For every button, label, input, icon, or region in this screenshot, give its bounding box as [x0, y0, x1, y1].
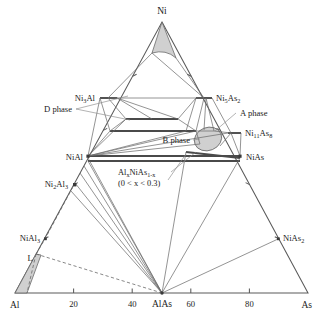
tie-f1-alas: [80, 173, 162, 293]
tick-label-80: 80: [245, 299, 254, 309]
tie-midbar-nial: [88, 131, 110, 156]
nial3-sub2: 3: [37, 237, 40, 244]
nias2-sub2: 2: [301, 237, 304, 244]
compound-label-ni3al: Ni3Al: [75, 93, 96, 104]
tie-nial-bphase: [88, 144, 200, 156]
dashed-boundaries: [27, 183, 162, 293]
leader-a-phase: [215, 113, 236, 131]
phase-diagram-canvas: Ni Al As 20 40 60 80 AlAs Ni3Al Ni5As2 N…: [0, 0, 321, 315]
compound-label-nial: NiAl: [66, 152, 84, 162]
compound-label-alas: AlAs: [152, 299, 172, 309]
compound-label-ni5as2: Ni5As2: [216, 93, 240, 104]
marker-alas: [160, 291, 163, 294]
tie-d-right: [178, 119, 196, 131]
tie-nirich-ni5as2: [152, 53, 204, 98]
marker-nias: [238, 155, 241, 158]
ni11as8-sub2: 8: [269, 132, 272, 139]
tie-alas-nias2: [162, 239, 278, 293]
tick-label-20: 20: [69, 299, 78, 309]
ternary-phase-diagram: Ni Al As 20 40 60 80 AlAs Ni3Al Ni5As2 N…: [0, 0, 321, 315]
ni-solid-solution-region: [152, 22, 176, 58]
compound-label-ni11as8: Ni11As8: [245, 128, 272, 139]
anno-sub: 1-x: [147, 171, 156, 178]
bar-alxnias: [186, 152, 240, 158]
tie-ni5as2-d: [178, 98, 196, 119]
tick-label-40: 40: [128, 299, 137, 309]
tie-lines: [71, 53, 278, 293]
tie-ni2al3-alas: [75, 183, 162, 293]
tie-ni5as2-a: [206, 98, 214, 131]
tie-d-mid: [110, 119, 126, 131]
phase-label-a: A phase: [240, 108, 268, 118]
anno-mid: NiAs: [129, 168, 147, 177]
marker-nial: [86, 155, 89, 158]
tie-ni-ni5as2: [176, 58, 204, 98]
phase-label-b: B phase: [163, 135, 191, 145]
compound-label-nial3: NiAl3: [20, 233, 40, 244]
corner-label-al: Al: [10, 300, 20, 310]
corner-label-as: As: [301, 300, 312, 310]
tie-ni11as8-nias2: [240, 133, 241, 156]
tie-ni5as2-mid2: [196, 98, 204, 131]
tie-ni5as2-mid1: [186, 98, 196, 131]
nial3-main: NiAl: [20, 233, 38, 243]
marker-ni2al3: [73, 183, 76, 186]
marker-nial3: [44, 237, 47, 240]
compound-label-nias: NiAs: [246, 152, 265, 162]
tie-ni-ni3al: [108, 53, 152, 98]
b-phase-region: [191, 123, 226, 155]
ni5as2-sub2: 2: [237, 97, 240, 104]
phase-label-liquid: L: [27, 253, 32, 263]
tick-label-60: 60: [187, 299, 196, 309]
compound-label-nias2: NiAs2: [283, 233, 304, 244]
shaded-regions: [15, 22, 225, 293]
tie-f3-alas: [71, 191, 162, 293]
compound-label-ni2al3: Ni2Al3: [45, 179, 68, 190]
ni2al3-sub2: 3: [65, 183, 68, 190]
annotation-alxnias-formula: AlxNiAs1-x: [118, 168, 156, 178]
marker-nias2: [277, 237, 280, 240]
corner-label-ni: Ni: [157, 6, 167, 16]
annotation-alxnias-range: (0 < x < 0.3): [118, 179, 160, 188]
phase-label-d: D phase: [44, 104, 72, 114]
nias2-main: NiAs: [283, 233, 302, 243]
tie-ni3al-d3: [117, 98, 178, 119]
leader-alxnias: [171, 152, 196, 172]
ni3al-mid: Al: [86, 93, 95, 103]
